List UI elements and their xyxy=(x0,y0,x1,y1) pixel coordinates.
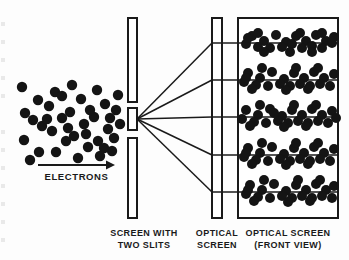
optical-screen-edge-view xyxy=(212,18,222,218)
electron-dot xyxy=(20,108,30,118)
electron-dot xyxy=(17,82,27,92)
electron-dot xyxy=(115,119,125,129)
fringe-dot xyxy=(247,159,257,169)
fringe-dot xyxy=(259,47,269,57)
fringe-dot xyxy=(291,63,301,73)
scan-artifact-mark xyxy=(1,166,5,170)
electron-dot xyxy=(113,90,123,100)
fringe-dot xyxy=(313,116,323,126)
fringe-dot xyxy=(253,28,263,38)
fringe-dot xyxy=(267,142,277,152)
fringe-dot xyxy=(271,30,281,40)
fringe-dot xyxy=(265,193,275,203)
electron-dot xyxy=(65,107,75,117)
label-electrons: ELECTRONS xyxy=(45,171,109,182)
label-front-view-line2: (FRONT VIEW) xyxy=(254,240,321,250)
electron-dot xyxy=(33,95,43,105)
scan-artifact-mark xyxy=(1,184,5,188)
fringe-dot xyxy=(247,84,257,94)
fringe-dot xyxy=(289,100,299,110)
scan-artifact-mark xyxy=(1,58,5,62)
fringe-dot xyxy=(291,138,301,148)
electron-dot xyxy=(51,147,61,157)
fringe-dot xyxy=(259,175,269,185)
fringe-dot xyxy=(305,196,315,206)
electron-dot xyxy=(28,115,38,125)
fringe-dot xyxy=(269,108,279,118)
electron-dot xyxy=(57,91,67,101)
fringe-dot xyxy=(257,63,267,73)
fringe-dot xyxy=(301,121,311,131)
arrow-head xyxy=(106,161,115,170)
label-barrier-line2: TWO SLITS xyxy=(118,240,171,250)
double-slit-diagram: ELECTRONS SCREEN WITH TWO SLITS OPTICAL … xyxy=(0,0,349,260)
fringe-dot xyxy=(243,185,253,195)
electron-dot xyxy=(42,114,52,124)
electron-dot xyxy=(67,80,77,90)
scan-artifact-mark xyxy=(1,40,5,44)
ray-line xyxy=(137,80,212,119)
label-front-view-line1: OPTICAL SCREEN xyxy=(246,228,331,238)
fringe-dot xyxy=(255,100,265,110)
scan-artifact-mark xyxy=(1,202,5,206)
fringe-dot xyxy=(325,156,335,166)
scan-artifact-mark xyxy=(1,238,5,242)
fringe-dot xyxy=(317,28,327,38)
electron-dot xyxy=(47,126,57,136)
electron-dot xyxy=(79,119,89,129)
fringe-dot xyxy=(317,43,327,53)
fringe-dot xyxy=(315,175,325,185)
electron-cloud xyxy=(17,80,125,165)
fringe-dot xyxy=(329,69,339,79)
electron-dot xyxy=(81,129,91,139)
fringe-dot xyxy=(315,154,325,164)
barrier-segment xyxy=(128,18,137,102)
fringe-dot xyxy=(327,193,337,203)
fringe-dot xyxy=(315,79,325,89)
fringe-dot xyxy=(249,196,259,206)
electron-dot xyxy=(73,153,83,163)
fringe-dot xyxy=(303,159,313,169)
fringe-dot xyxy=(283,197,293,207)
electron-dot xyxy=(34,147,44,157)
fringe-dot xyxy=(241,73,251,83)
scan-artifact-mark xyxy=(1,22,5,26)
fringe-dot xyxy=(245,121,255,131)
fringe-dot xyxy=(303,84,313,94)
electron-dot xyxy=(85,105,95,115)
label-optical-screen-line2: SCREEN xyxy=(197,240,237,250)
scan-artifact-mark xyxy=(1,220,5,224)
fringe-dot xyxy=(329,32,339,42)
fringe-dot xyxy=(329,181,339,191)
fringe-dot xyxy=(241,148,251,158)
electron-dot xyxy=(63,123,73,133)
electron-dot xyxy=(105,113,115,123)
scan-artifact-mark xyxy=(1,76,5,80)
fringe-dot xyxy=(295,28,305,38)
barrier-segment xyxy=(128,108,137,130)
barrier-screen-with-two-slits xyxy=(128,18,137,218)
fringe-dot xyxy=(313,138,323,148)
fringe-dot xyxy=(267,67,277,77)
fringe-dot xyxy=(281,160,291,170)
fringe-dot xyxy=(331,113,341,123)
figure-canvas: ELECTRONS SCREEN WITH TWO SLITS OPTICAL … xyxy=(0,0,349,260)
fringe-dot xyxy=(279,122,289,132)
fringe-dot xyxy=(285,47,295,57)
fringe-dot xyxy=(311,100,321,110)
electron-dot xyxy=(92,85,102,95)
fringe-dot xyxy=(257,138,267,148)
fringe-dot xyxy=(243,33,253,43)
electron-dot xyxy=(44,101,54,111)
diffraction-rays xyxy=(137,43,212,192)
fringe-dot xyxy=(293,175,303,185)
ray-line xyxy=(137,117,212,119)
fringe-dot xyxy=(307,47,317,57)
fringe-dot xyxy=(329,144,339,154)
ray-line xyxy=(137,43,212,119)
scan-artifact-mark xyxy=(1,130,5,134)
fringe-dot xyxy=(241,105,251,115)
fringe-dot xyxy=(297,43,307,53)
fringe-dot xyxy=(237,114,247,124)
label-barrier-line1: SCREEN WITH xyxy=(110,228,177,238)
